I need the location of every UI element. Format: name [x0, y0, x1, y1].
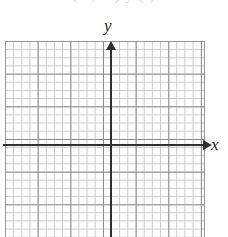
y-axis-label: y [104, 17, 112, 34]
clipped-header-text: ( 2, 0 ) y ( ) [0, 0, 228, 5]
y-axis-arrow-icon [106, 41, 116, 50]
y-axis-line [110, 48, 112, 237]
grid-major-lines [5, 41, 205, 237]
x-axis-label: x [211, 136, 219, 153]
x-axis-line [3, 144, 209, 146]
figure-canvas: ( 2, 0 ) y ( ) y x [0, 0, 228, 237]
coordinate-grid [5, 41, 205, 237]
